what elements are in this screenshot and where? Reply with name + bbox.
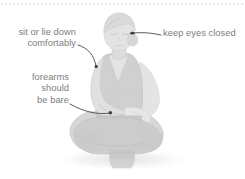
annotation-forearms-line1: forearms xyxy=(0,72,69,83)
annotation-sit-or-lie-line1: sit or lie down xyxy=(0,27,76,38)
annotation-forearms-line2: should xyxy=(0,83,69,94)
annotation-forearms-should-be-bare: forearms should be bare xyxy=(0,72,69,106)
knee-right xyxy=(141,130,163,148)
annotation-forearms-line3: be bare xyxy=(0,95,69,106)
bottom-fade xyxy=(0,150,245,179)
hair-bun xyxy=(128,33,138,46)
annotation-sit-or-lie-line2: comfortably xyxy=(0,38,76,49)
illustration-canvas: keep eyes closed sit or lie down comfort… xyxy=(0,0,245,179)
annotation-keep-eyes-closed-line1: keep eyes closed xyxy=(163,28,236,39)
knee-left xyxy=(74,129,98,147)
annotation-sit-or-lie-down: sit or lie down comfortably xyxy=(0,27,76,50)
annotation-keep-eyes-closed: keep eyes closed xyxy=(163,28,236,39)
